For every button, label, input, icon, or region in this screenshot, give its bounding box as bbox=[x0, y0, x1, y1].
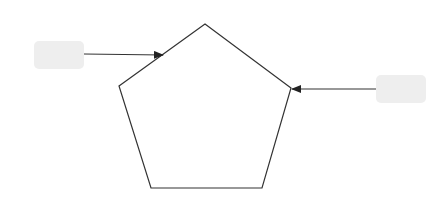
pentagon-shape[interactable] bbox=[119, 24, 291, 188]
diagram-canvas bbox=[0, 0, 447, 204]
right-box[interactable] bbox=[376, 75, 426, 103]
left-box[interactable] bbox=[34, 41, 84, 69]
left-arrow bbox=[84, 54, 163, 55]
